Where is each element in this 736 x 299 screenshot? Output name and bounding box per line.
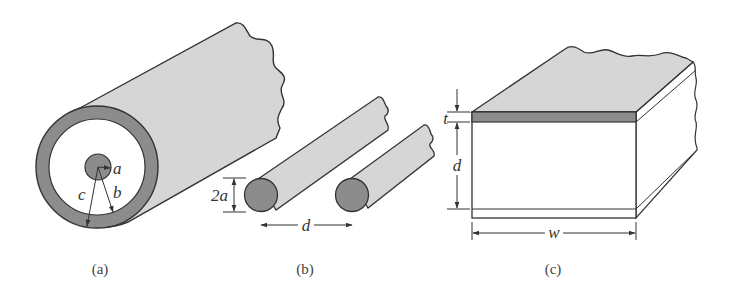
label-w: w [548,223,560,242]
label-d-separation: d [302,216,311,235]
caption-b: (b) [296,261,314,278]
wire-2-end [336,179,369,212]
wire-1-end [245,179,278,212]
label-b: b [113,183,122,202]
panel-c-parallel-plate: t d w (c) [443,47,697,278]
label-2a: 2a [211,186,228,205]
caption-c: (c) [545,261,562,278]
plate-front-dielectric [472,112,636,218]
label-d-spacing: d [453,156,462,175]
transmission-lines-diagram: a b c (a) 2a d (b) [0,0,736,299]
panel-a-coaxial: a b c (a) [36,23,284,278]
label-c: c [78,185,86,204]
plate-top-conductor [472,112,636,122]
caption-a: (a) [92,261,109,278]
label-a: a [113,159,122,178]
